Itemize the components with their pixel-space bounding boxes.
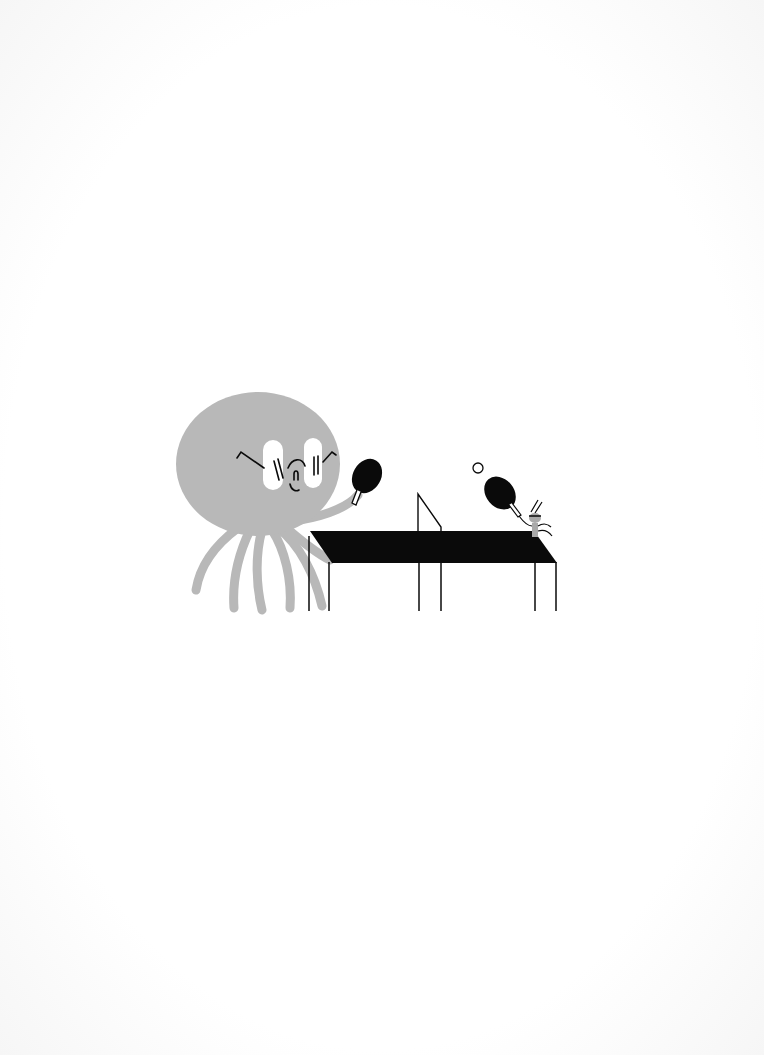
bug-body: [532, 523, 538, 537]
paddle-handle: [509, 503, 521, 517]
tentacle: [257, 530, 262, 610]
ping-pong-table: [310, 531, 557, 563]
bug-head: [529, 513, 541, 523]
book-page: [0, 0, 764, 1055]
tentacle: [234, 530, 250, 608]
paddle-blade: [346, 453, 388, 498]
ping-pong-ball: [473, 463, 483, 473]
bug-antenna: [531, 500, 542, 513]
bug-paddle: [478, 470, 523, 517]
ping-pong-illustration: [0, 0, 764, 1055]
table-net: [418, 494, 441, 532]
glasses-lens-right: [304, 438, 322, 488]
bug-leg: [538, 530, 552, 536]
bug-leg: [538, 524, 551, 527]
